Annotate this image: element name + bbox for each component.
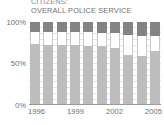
bar-segment-middle-segment [83, 32, 93, 45]
bar-1997 [43, 22, 53, 105]
y-axis-labels: 100%50%0% [0, 22, 27, 105]
bar-segment-middle-segment [70, 32, 80, 44]
bar-1999 [70, 22, 80, 105]
bar-segment-bottom-segment [123, 55, 133, 105]
y-axis-tick-100: 100% [7, 17, 26, 26]
bar-segment-middle-segment [150, 36, 160, 52]
bar-segment-bottom-segment [150, 51, 160, 104]
bar-segment-top-segment [70, 22, 80, 33]
bar-2002 [110, 22, 120, 105]
bar-segment-bottom-segment [110, 48, 120, 104]
bar-segment-middle-segment [43, 32, 53, 44]
x-axis-labels: 1996199920022005 [29, 107, 161, 121]
bar-group [29, 22, 161, 105]
bar-segment-middle-segment [97, 33, 107, 46]
bar-segment-bottom-segment [30, 44, 40, 105]
bar-segment-middle-segment [137, 36, 147, 55]
bar-segment-middle-segment [110, 33, 120, 48]
bar-2005 [150, 22, 160, 105]
x-axis-tick-1999: 1999 [67, 107, 84, 116]
bar-2001 [97, 22, 107, 105]
bar-2003 [123, 22, 133, 105]
x-axis-tick-2002: 2002 [106, 107, 123, 116]
plot-area [29, 22, 161, 105]
bar-segment-bottom-segment [97, 46, 107, 104]
bar-segment-top-segment [123, 22, 133, 35]
bar-segment-top-segment [43, 22, 53, 33]
chart-container: CITIZENS: OVERALL POLICE SERVICE 100%50%… [0, 0, 164, 125]
bar-segment-bottom-segment [137, 56, 147, 105]
bar-2004 [137, 22, 147, 105]
bar-segment-bottom-segment [57, 45, 67, 105]
bar-1996 [30, 22, 40, 105]
bar-segment-top-segment [110, 22, 120, 34]
bar-1998 [57, 22, 67, 105]
x-axis-line [29, 104, 161, 105]
x-axis-tick-2005: 2005 [145, 107, 162, 116]
bar-segment-middle-segment [123, 35, 133, 55]
bar-segment-bottom-segment [83, 46, 93, 105]
chart-title: CITIZENS: OVERALL POLICE SERVICE [31, 0, 164, 15]
bar-segment-middle-segment [57, 32, 67, 44]
x-axis-tick-1996: 1996 [28, 107, 45, 116]
bar-segment-top-segment [150, 22, 160, 36]
bar-segment-top-segment [97, 22, 107, 34]
bar-segment-top-segment [137, 22, 147, 37]
bar-segment-top-segment [57, 22, 67, 33]
bar-segment-middle-segment [30, 32, 40, 44]
bar-segment-top-segment [83, 22, 93, 33]
y-axis-tick-50: 50% [11, 59, 26, 68]
bar-2000 [83, 22, 93, 105]
bar-segment-bottom-segment [43, 45, 53, 105]
bar-segment-top-segment [30, 22, 40, 33]
bar-segment-bottom-segment [70, 45, 80, 105]
y-axis-tick-0: 0% [15, 100, 26, 109]
chart-title-line-2: OVERALL POLICE SERVICE [31, 7, 164, 16]
